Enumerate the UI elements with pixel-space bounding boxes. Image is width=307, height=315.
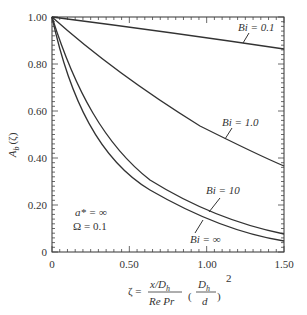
svg-text:Dh: Dh <box>197 278 210 293</box>
label-bi-0-1: Bi = 0.1 <box>238 21 274 33</box>
x-axis-label: ζ = x/Dh Re Pr ( Dh d ) 2 <box>128 272 232 307</box>
curve-bi-1-0 <box>52 17 284 166</box>
annotation-a-star: a* = ∞ <box>75 206 107 218</box>
svg-text:(: ( <box>188 290 192 303</box>
leader-bi-inf <box>195 220 203 233</box>
leader-bi-1-0 <box>225 128 232 139</box>
y-tick-labels: 0 0.20 0.40 0.60 0.80 1.00 <box>28 11 48 258</box>
y-axis-label: Ab(ζ) <box>6 132 21 158</box>
label-bi-inf: Bi = ∞ <box>190 233 221 245</box>
svg-text:x/Dh: x/Dh <box>149 278 170 293</box>
leader-bi-0-1 <box>243 33 249 43</box>
svg-text:d: d <box>202 295 208 307</box>
x-tick-0-50: 0.50 <box>119 258 139 270</box>
svg-text:Re Pr: Re Pr <box>148 295 175 307</box>
svg-text:2: 2 <box>226 272 232 284</box>
x-tick-labels: 0 0.50 1.00 1.50 <box>49 258 294 270</box>
chart: 0 0.20 0.40 0.60 0.80 1.00 0 0.50 1.00 1… <box>0 0 307 315</box>
leader-bi-10 <box>209 198 220 212</box>
svg-text:): ) <box>217 290 221 303</box>
x-tick-0: 0 <box>49 258 55 270</box>
y-tick-0: 0 <box>42 246 48 258</box>
y-tick-1-00: 1.00 <box>28 11 48 23</box>
y-tick-0-20: 0.20 <box>28 199 48 211</box>
label-bi-1-0: Bi = 1.0 <box>222 116 259 128</box>
svg-text:ζ =: ζ = <box>128 285 142 298</box>
y-tick-0-40: 0.40 <box>28 152 48 164</box>
x-tick-1-00: 1.00 <box>197 258 217 270</box>
svg-text:Ab(ζ): Ab(ζ) <box>6 132 21 158</box>
annotation-omega: Ω = 0.1 <box>73 220 107 232</box>
label-bi-10: Bi = 10 <box>206 184 240 196</box>
y-tick-0-80: 0.80 <box>28 58 48 70</box>
x-tick-1-50: 1.50 <box>274 258 294 270</box>
y-tick-0-60: 0.60 <box>28 105 48 117</box>
